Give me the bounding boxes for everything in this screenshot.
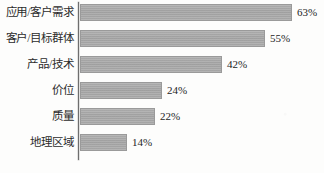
category-label: 价位 <box>0 83 74 97</box>
value-label: 63% <box>297 5 317 19</box>
category-label: 应用/客户需求 <box>0 5 74 19</box>
bar-row: 价位 24% <box>0 81 324 106</box>
bar-价位 <box>80 82 162 99</box>
value-label: 42% <box>227 57 247 71</box>
value-label: 22% <box>160 109 180 123</box>
category-label: 产品/技术 <box>0 57 74 71</box>
value-label: 55% <box>270 31 290 45</box>
bar-row: 应用/客户需求 63% <box>0 3 324 28</box>
bar-产品技术 <box>80 56 222 73</box>
value-label: 14% <box>132 135 152 149</box>
bar-地理区域 <box>80 134 127 151</box>
figure-caption <box>0 165 324 173</box>
bar-row: 地理区域 14% <box>0 133 324 158</box>
value-label: 24% <box>167 83 187 97</box>
category-label: 客户/目标群体 <box>0 31 74 45</box>
plot-area: 应用/客户需求 63% 客户/目标群体 55% 产品/技术 42% 价位 24%… <box>0 0 324 173</box>
bar-row: 质量 22% <box>0 107 324 132</box>
category-label: 地理区域 <box>0 135 74 149</box>
bar-row: 客户/目标群体 55% <box>0 29 324 54</box>
bar-客户目标群体 <box>80 30 265 47</box>
category-label: 质量 <box>0 109 74 123</box>
bar-row: 产品/技术 42% <box>0 55 324 80</box>
bar-质量 <box>80 108 155 125</box>
bar-应用客户需求 <box>80 4 292 21</box>
bar-chart-figure: 应用/客户需求 63% 客户/目标群体 55% 产品/技术 42% 价位 24%… <box>0 0 324 173</box>
